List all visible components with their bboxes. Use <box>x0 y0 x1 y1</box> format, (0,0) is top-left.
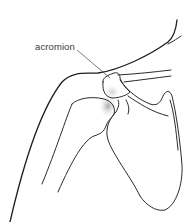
clavicle-upper <box>118 70 171 75</box>
scapula-inner-ridge <box>170 100 178 150</box>
scapula-outline <box>107 80 182 210</box>
shoulder-line-art <box>0 0 192 222</box>
acromion-label: acromion <box>35 42 75 52</box>
glenoid-detail <box>126 100 129 114</box>
clavicle-lower <box>124 76 171 82</box>
